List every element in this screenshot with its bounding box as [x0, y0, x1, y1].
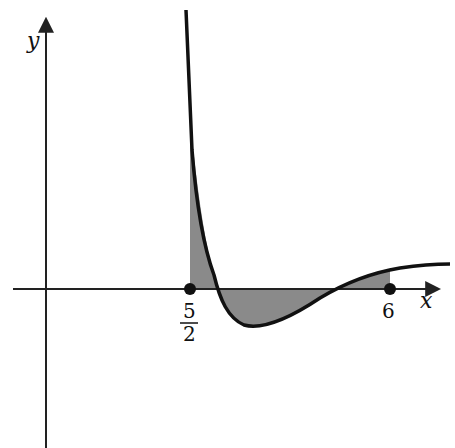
tick-label-5-2-denominator: 2 [183, 322, 196, 346]
function-curve [186, 10, 450, 326]
point-5-2 [184, 283, 196, 295]
function-graph: y x 5 2 6 [0, 0, 455, 448]
tick-label-6: 6 [382, 299, 395, 323]
tick-label-5-2-numerator: 5 [183, 299, 196, 323]
y-axis-label: y [26, 28, 40, 53]
point-6 [384, 283, 396, 295]
x-axis-label: x [420, 288, 433, 313]
